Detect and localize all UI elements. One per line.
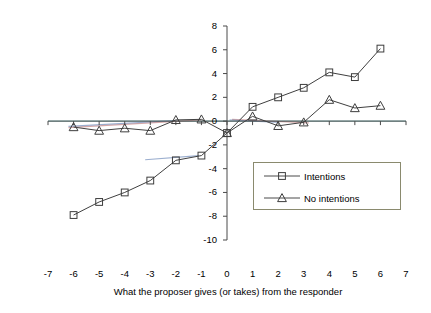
x-tick-label: 4 (319, 268, 339, 279)
x-tick-label: 1 (243, 268, 263, 279)
data-point-marker (70, 212, 77, 219)
y-tick-label: 4 (195, 68, 217, 79)
x-tick-label: 2 (268, 268, 288, 279)
legend-square-marker-icon (263, 169, 301, 183)
x-tick-label: -7 (38, 268, 58, 279)
x-tick-label: 5 (345, 268, 365, 279)
x-tick-label: -6 (64, 268, 84, 279)
legend-item-intentions[interactable]: Intentions (263, 169, 345, 183)
y-tick-label: 8 (195, 20, 217, 31)
y-tick-label: -10 (195, 234, 217, 245)
x-tick-label: -4 (115, 268, 135, 279)
x-tick-label: -5 (89, 268, 109, 279)
y-tick-label: 2 (195, 91, 217, 102)
data-point-marker (376, 101, 385, 109)
x-tick-label: 6 (370, 268, 390, 279)
y-tick-label: -4 (195, 163, 217, 174)
x-tick-label: 7 (396, 268, 416, 279)
x-tick-label: -2 (166, 268, 186, 279)
y-tick-label: -6 (195, 186, 217, 197)
x-tick-label: 0 (217, 268, 237, 279)
y-axis-title: What the responder does to the proposer'… (2, 0, 36, 34)
x-tick-label: -1 (191, 268, 211, 279)
legend-item-label: Intentions (304, 171, 345, 182)
x-axis-title: What the proposer gives (or takes) from … (48, 286, 408, 297)
legend-triangle-marker-icon (263, 191, 301, 205)
y-tick-label: 6 (195, 44, 217, 55)
x-tick-label: -3 (140, 268, 160, 279)
x-tick-label: 3 (294, 268, 314, 279)
y-tick-label: 0 (195, 115, 217, 126)
legend-item-no-intentions[interactable]: No intentions (263, 191, 359, 205)
legend-item-label: No intentions (304, 193, 359, 204)
y-tick-label: -2 (195, 139, 217, 150)
y-tick-label: -8 (195, 210, 217, 221)
chart-figure: What the responder does to the proposer'… (0, 0, 431, 313)
